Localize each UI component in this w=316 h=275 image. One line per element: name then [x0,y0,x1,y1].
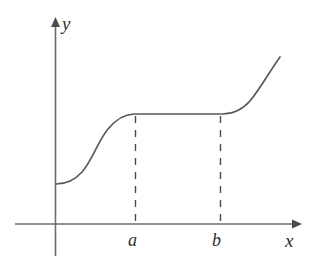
function-curve [56,57,280,184]
graph-canvas [0,0,316,275]
x-axis-label: x [285,231,293,250]
y-axis-label: y [62,14,70,33]
function-graph-figure: y x a b [0,0,316,275]
x-tick-label-a: a [128,231,137,249]
x-axis-arrowhead [292,220,302,229]
x-tick-label-b: b [212,231,221,249]
y-axis-arrowhead [51,17,60,27]
